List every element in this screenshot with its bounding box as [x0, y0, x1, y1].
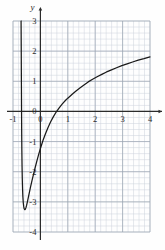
y-tick-label: 0 [32, 106, 36, 116]
x-tick-label: 2 [93, 114, 97, 124]
y-tick-label: -4 [29, 227, 37, 237]
chart-figure: -101234 3210-1-2-3-4 y [0, 0, 165, 250]
y-tick-label: -3 [29, 197, 36, 207]
y-axis-name-label: y [29, 2, 34, 12]
x-tick-label: 0 [38, 114, 42, 124]
plot-svg: -101234 3210-1-2-3-4 y [0, 0, 165, 250]
plot-background [0, 0, 165, 250]
x-tick-label: 1 [66, 114, 70, 124]
y-tick-label: -1 [29, 137, 36, 147]
y-axis-label-text: y [29, 2, 34, 12]
y-tick-label: 2 [32, 46, 36, 56]
x-tick-label: -1 [9, 114, 16, 124]
y-tick-label: 3 [32, 16, 36, 26]
x-tick-label: 3 [120, 114, 124, 124]
y-tick-label: 1 [32, 76, 36, 86]
